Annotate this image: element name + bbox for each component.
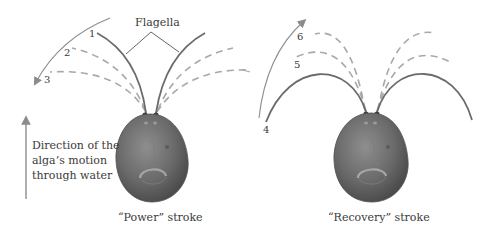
alga-body-recovery (334, 111, 408, 202)
direction-indicator: Direction of the alga’s motion through w… (26, 120, 120, 199)
position-5-label: 5 (294, 59, 300, 70)
flagellum-left-position-3 (50, 72, 146, 112)
recovery-stroke-panel: 4 5 6 “Recovery” stroke (243, 22, 472, 224)
flagellum-left-position-4 (266, 74, 366, 122)
direction-text-line-3: through water (32, 169, 113, 182)
flagellum-right-position-5 (377, 55, 452, 111)
position-4-label: 4 (263, 124, 269, 135)
power-stroke-panel: Flagella 1 2 3 “Power” stroke (36, 16, 250, 224)
direction-text-line-1: Direction of the (32, 139, 120, 152)
flagellum-right-position-4 (377, 74, 472, 120)
flagellum-right-position-6 (378, 32, 435, 110)
recovery-stroke-caption: “Recovery” stroke (328, 211, 430, 224)
position-2-label: 2 (64, 47, 70, 58)
flagellum-left-position-5 (296, 52, 366, 111)
flagella-label: Flagella (135, 16, 180, 29)
flagella-stroke-diagram: Flagella 1 2 3 “Power” stroke Direction … (0, 0, 496, 233)
flagellum-right-position-1 (156, 33, 205, 113)
alga-body-power (116, 112, 188, 202)
flagellum-left-position-6 (315, 33, 365, 110)
position-6-label: 6 (297, 31, 303, 42)
flagella-callout-lines (126, 32, 179, 54)
power-stroke-caption: “Power” stroke (118, 211, 203, 224)
position-3-label: 3 (44, 74, 50, 85)
direction-text-line-2: alga’s motion (32, 154, 107, 167)
flagellum-right-position-3 (157, 70, 250, 112)
position-1-label: 1 (89, 28, 95, 39)
